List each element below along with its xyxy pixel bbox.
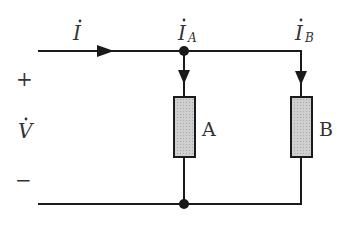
minus-terminal-label: −	[15, 168, 32, 192]
svg-text:A: A	[187, 31, 197, 45]
svg-text:I: I	[294, 21, 304, 45]
element-b-label: B	[319, 118, 333, 140]
svg-text:B: B	[304, 31, 314, 45]
circuit-diagram: I I A I B + V − A B	[0, 0, 340, 231]
voltage-label: V	[18, 118, 35, 143]
current-b-label: I B	[294, 19, 314, 45]
current-b-arrow-icon	[295, 71, 307, 85]
svg-text:V: V	[18, 119, 35, 143]
bottom-junction-node	[179, 199, 189, 209]
top-wire	[38, 51, 301, 97]
element-a	[174, 97, 195, 157]
element-a-label: A	[201, 118, 216, 140]
svg-text:I: I	[177, 21, 187, 45]
total-current-label: I	[72, 20, 82, 45]
bottom-wire	[38, 157, 301, 204]
total-current-arrow-icon	[97, 45, 114, 57]
plus-terminal-label: +	[16, 67, 33, 91]
svg-text:I: I	[72, 21, 82, 45]
current-a-arrow-icon	[178, 70, 190, 84]
wires	[38, 51, 301, 204]
element-b	[291, 97, 312, 157]
top-junction-node	[179, 46, 189, 56]
current-a-label: I A	[177, 19, 197, 45]
